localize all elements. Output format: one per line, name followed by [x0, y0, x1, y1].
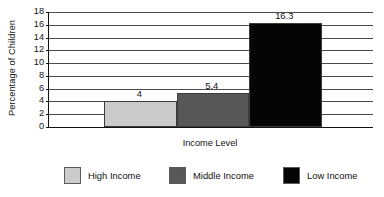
y-axis-tick-mark — [46, 127, 49, 128]
legend-label: Middle Income — [193, 170, 254, 181]
x-axis-title: Income Level — [48, 138, 372, 148]
bar-value-label: 5.4 — [205, 81, 218, 91]
y-axis-title: Percentage of Children — [0, 0, 24, 135]
legend-label: High Income — [88, 170, 141, 181]
y-axis-tick-label: 0 — [39, 122, 44, 131]
legend-item-middle-income[interactable]: Middle Income — [169, 165, 254, 185]
bar-value-label: 4 — [137, 89, 142, 99]
y-axis-tick-labels: 024681012141618 — [24, 12, 46, 127]
bar-middle-income — [177, 93, 250, 128]
y-axis-tick-label: 6 — [39, 84, 44, 93]
legend-item-high-income[interactable]: High Income — [64, 165, 141, 185]
bar-value-label: 16.3 — [275, 11, 293, 21]
y-axis-tick-label: 8 — [39, 71, 44, 80]
bar-chart: Percentage of Children 024681012141618 4… — [0, 0, 384, 197]
bar-high-income — [104, 101, 177, 127]
bars-layer — [49, 12, 373, 127]
bar-low-income — [249, 23, 322, 127]
chart-legend: High IncomeMiddle IncomeLow Income — [0, 165, 384, 193]
y-axis-tick-label: 4 — [39, 97, 44, 106]
legend-label: Low Income — [307, 170, 358, 181]
y-axis-title-text: Percentage of Children — [7, 19, 17, 115]
y-axis-tick-label: 16 — [34, 20, 44, 29]
legend-swatch — [64, 167, 81, 184]
legend-swatch — [283, 167, 300, 184]
y-axis-tick-label: 12 — [34, 46, 44, 55]
legend-item-low-income[interactable]: Low Income — [283, 165, 358, 185]
y-axis-tick-label: 2 — [39, 110, 44, 119]
y-axis-tick-label: 18 — [34, 7, 44, 16]
plot-area — [48, 12, 373, 128]
legend-swatch — [169, 167, 186, 184]
y-axis-tick-label: 14 — [34, 33, 44, 42]
y-axis-tick-label: 10 — [34, 59, 44, 68]
